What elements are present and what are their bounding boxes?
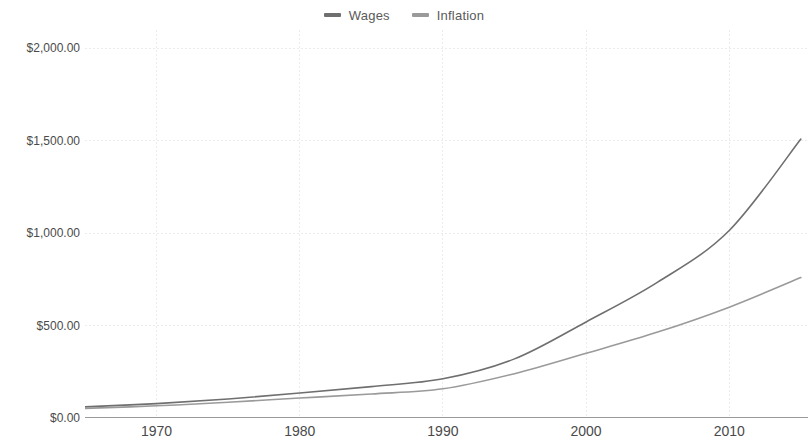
gridlines-horizontal xyxy=(85,48,808,325)
legend-label-wages: Wages xyxy=(349,9,390,22)
y-axis-tick-label: $0.00 xyxy=(0,412,80,424)
chart-container: Wages Inflation $0.00$500.00$1,000.00$1,… xyxy=(0,0,808,444)
x-axis-tick-label: 1990 xyxy=(403,424,483,438)
x-axis-tick-label: 1980 xyxy=(260,424,340,438)
plot-area xyxy=(85,30,808,418)
y-axis-tick-label: $500.00 xyxy=(0,320,80,332)
legend-swatch-wages xyxy=(324,13,341,17)
chart-legend: Wages Inflation xyxy=(0,3,808,27)
y-axis-tick-label: $1,500.00 xyxy=(0,135,80,147)
x-axis-tick-label: 1970 xyxy=(117,424,197,438)
legend-swatch-inflation xyxy=(412,13,429,17)
gridlines-vertical xyxy=(157,30,730,418)
legend-item-inflation[interactable]: Inflation xyxy=(412,9,484,22)
legend-item-wages[interactable]: Wages xyxy=(324,9,390,22)
plot-svg xyxy=(85,30,808,418)
y-axis-tick-label: $1,000.00 xyxy=(0,227,80,239)
legend-label-inflation: Inflation xyxy=(437,9,484,22)
x-axis-tick-label: 2010 xyxy=(689,424,769,438)
x-axis-tick-label: 2000 xyxy=(546,424,626,438)
y-axis-tick-label: $2,000.00 xyxy=(0,42,80,54)
